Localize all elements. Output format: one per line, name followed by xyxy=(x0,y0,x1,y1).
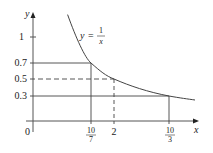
chart: 1 0.7 0.5 0.3 y x 0 10 7 2 10 3 y = 1 x xyxy=(0,0,213,153)
y-axis-arrow-icon xyxy=(31,12,36,18)
origin-label: 0 xyxy=(25,126,30,137)
x-tick-label-2: 2 xyxy=(112,126,117,137)
y-tick-label-0.5: 0.5 xyxy=(15,73,28,84)
function-label-eq: = xyxy=(88,30,94,41)
x-tick-label-10-7-den: 7 xyxy=(89,135,93,144)
curve-reciprocal xyxy=(68,15,195,100)
x-tick-label-10-7-num: 10 xyxy=(87,126,95,135)
y-tick-label-0.3: 0.3 xyxy=(15,90,28,101)
y-axis-label: y xyxy=(24,8,30,19)
y-tick-label-0.7: 0.7 xyxy=(15,57,28,68)
x-tick-label-10-3-den: 3 xyxy=(168,135,172,144)
function-label-den: x xyxy=(98,37,103,46)
x-axis-label: x xyxy=(193,124,199,135)
x-axis-arrow-icon xyxy=(193,119,199,124)
y-tick-label-1: 1 xyxy=(19,31,24,42)
function-label-num: 1 xyxy=(99,26,103,35)
x-tick-label-10-3-num: 10 xyxy=(166,126,174,135)
function-label-lhs: y xyxy=(79,30,85,41)
